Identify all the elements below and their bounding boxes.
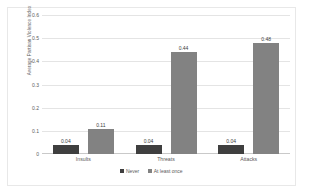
bar-value-label: 0.44: [179, 46, 189, 51]
x-axis-label-threats: Threats: [125, 156, 208, 162]
bar-value-label: 0.48: [261, 37, 271, 42]
x-axis-label-insults: Insults: [42, 156, 125, 162]
legend-swatch-icon: [120, 169, 124, 173]
bar-group-attacks: 0.040.48: [207, 15, 290, 154]
y-axis-tick-label: 0.6: [32, 12, 39, 18]
bar[interactable]: [171, 52, 197, 154]
chart-legend: NeverAt least once: [8, 168, 295, 174]
bars-layer: 0.040.110.040.440.040.48: [42, 15, 290, 154]
bar-value-label: 0.11: [96, 123, 105, 128]
chart-container: Average Partisan Violence Index 0.60.50.…: [7, 7, 296, 186]
y-axis-tick-label: 0.3: [32, 82, 39, 88]
bar[interactable]: [88, 129, 114, 154]
bar-group-threats: 0.040.44: [125, 15, 208, 154]
y-axis-tick-label: 0.5: [32, 35, 39, 41]
bar[interactable]: [218, 145, 244, 154]
bar-value-label: 0.04: [226, 139, 236, 144]
legend-label: Never: [126, 168, 139, 174]
legend-item-never[interactable]: Never: [120, 168, 139, 174]
y-axis-tick-label: 0.2: [32, 105, 39, 111]
bar-value-label: 0.04: [144, 139, 154, 144]
bar-group-insults: 0.040.11: [42, 15, 125, 154]
plot-area: 0.040.110.040.440.040.48: [42, 15, 290, 154]
legend-swatch-icon: [148, 169, 152, 173]
bar-slot: 0.04: [53, 15, 79, 154]
y-axis-tick-label: 0.4: [32, 58, 39, 64]
bar-slot: 0.48: [253, 15, 279, 154]
legend-item-at-least-once[interactable]: At least once: [148, 168, 182, 174]
plot-wrapper: Average Partisan Violence Index 0.60.50.…: [8, 8, 295, 185]
bar-slot: 0.04: [136, 15, 162, 154]
bar-slot: 0.04: [218, 15, 244, 154]
bar[interactable]: [136, 145, 162, 154]
x-axis-label-attacks: Attacks: [207, 156, 290, 162]
bar[interactable]: [253, 43, 279, 154]
bar-slot: 0.11: [88, 15, 114, 154]
x-axis-category-labels: InsultsThreatsAttacks: [42, 156, 290, 162]
bar-value-label: 0.04: [61, 139, 71, 144]
y-axis-tick-label: 0.1: [32, 128, 39, 134]
y-axis-tick-labels: 0.60.50.40.30.20.10: [24, 15, 39, 154]
legend-label: At least once: [154, 168, 183, 174]
bar-slot: 0.44: [171, 15, 197, 154]
bar[interactable]: [53, 145, 79, 154]
y-axis-tick-label: 0: [36, 151, 39, 157]
